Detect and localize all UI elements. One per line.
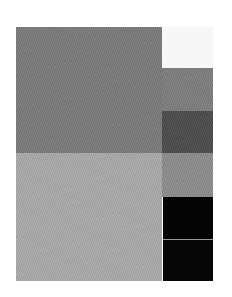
swatch-black	[163, 197, 213, 239]
swatch-black-2	[163, 240, 213, 281]
swatch-dark-gray	[162, 111, 213, 153]
swatch-mid-gray	[162, 153, 213, 197]
swatch-gray	[162, 68, 213, 111]
large-light-gray-block	[16, 153, 162, 281]
swatch-white	[162, 27, 213, 68]
large-gray-block	[16, 27, 162, 153]
